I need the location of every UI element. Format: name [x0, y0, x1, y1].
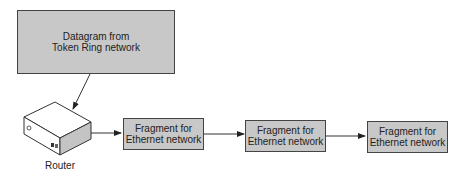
token-ring-datagram-box: Datagram from Token Ring network — [17, 10, 175, 74]
ethernet-fragment-box-2: Fragment for Ethernet network — [245, 120, 326, 152]
arrow-datagram-to-router — [73, 74, 90, 109]
box-text-line1: Fragment for — [379, 126, 436, 137]
router-label: Router — [45, 160, 75, 171]
box-text-line1: Fragment for — [135, 123, 192, 134]
box-text-line2: Ethernet network — [248, 136, 324, 147]
router-icon — [24, 102, 91, 155]
box-text-line2: Token Ring network — [52, 42, 140, 53]
ethernet-fragment-box-3: Fragment for Ethernet network — [367, 121, 448, 153]
box-text-line1: Fragment for — [257, 125, 314, 136]
box-text-line1: Datagram from — [63, 31, 130, 42]
ethernet-fragment-box-1: Fragment for Ethernet network — [123, 118, 204, 150]
box-text-line2: Ethernet network — [126, 134, 202, 145]
box-text-line2: Ethernet network — [370, 137, 446, 148]
